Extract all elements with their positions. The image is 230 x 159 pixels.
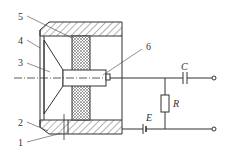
label-r: R [172,98,179,109]
label-1: 1 [18,137,23,148]
output-terminal-top [212,76,216,80]
rod-tip [106,74,110,80]
label-3: 3 [18,57,23,68]
label-e: E [145,112,152,123]
output-terminal-bottom [212,127,216,131]
label-5: 5 [18,11,23,22]
circuit [110,72,216,134]
label-6: 6 [146,41,151,52]
label-c: C [181,61,188,72]
label-4: 4 [18,35,23,46]
resistor [161,95,169,112]
label-2: 2 [18,117,23,128]
diaphragm [44,40,63,114]
diagram-canvas: 5 4 3 6 2 1 C R E [0,0,230,159]
